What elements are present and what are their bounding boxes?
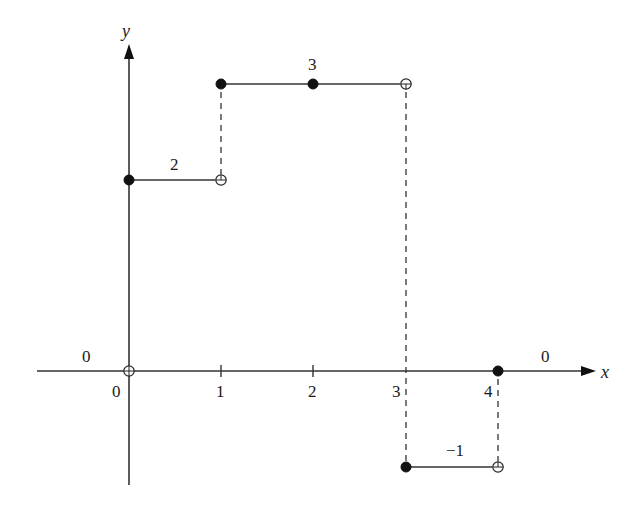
step-function-chart: x y 0 1 2 3 4 0 2 3 −1 0: [0, 0, 634, 511]
open-points: [124, 79, 503, 472]
value-label-left: 0: [82, 347, 91, 366]
x-axis-label: x: [600, 362, 609, 382]
axes: x y: [37, 21, 609, 485]
closed-dot-icon: [493, 366, 503, 376]
jump-connectors: [221, 92, 498, 461]
tick-label-3: 3: [392, 382, 401, 401]
tick-label-1: 1: [216, 382, 225, 401]
closed-points: [124, 79, 503, 472]
x-axis-arrow-icon: [581, 366, 596, 376]
tick-label-0: 0: [112, 382, 121, 401]
y-axis-arrow-icon: [124, 44, 134, 59]
y-axis-label: y: [120, 21, 130, 41]
closed-dot-icon: [124, 175, 134, 185]
step-segments: [129, 84, 492, 467]
value-label-right: 0: [541, 347, 550, 366]
closed-dot-icon: [216, 79, 226, 89]
closed-dot-icon: [308, 79, 318, 89]
tick-label-4: 4: [484, 382, 493, 401]
value-label-seg1: 2: [170, 155, 179, 174]
value-label-seg2: 3: [308, 55, 317, 74]
tick-label-2: 2: [308, 382, 317, 401]
closed-dot-icon: [401, 462, 411, 472]
value-label-seg3: −1: [446, 441, 464, 460]
